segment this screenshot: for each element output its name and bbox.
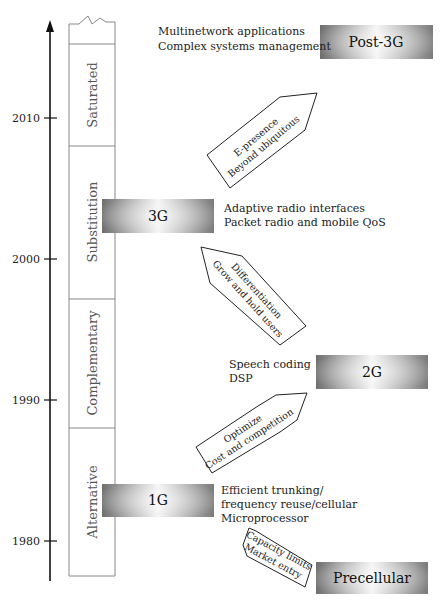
phase-alternative: Alternative — [85, 465, 100, 540]
phase-substitution: Substitution — [85, 181, 100, 262]
generation-3g: 3G Adaptive radio interfaces Packet radi… — [102, 199, 386, 233]
time-axis: 2010 2000 1990 1980 — [12, 20, 57, 581]
feature-line: frequency reuse/cellular — [221, 498, 358, 511]
feature-line: Microprocessor — [221, 512, 309, 525]
feature-line: Adaptive radio interfaces — [223, 202, 365, 215]
tick-label: 1980 — [12, 535, 40, 548]
generation-1g: 1G Efficient trunking/ frequency reuse/c… — [102, 484, 358, 525]
feature-line: DSP — [229, 372, 253, 385]
feature-line: Speech coding — [229, 358, 311, 371]
feature-line: Multinetwork applications — [158, 25, 305, 38]
generation-label: 1G — [148, 492, 168, 508]
transition-arrow-3g-to-post3g: E-presence Beyond ubiquitous — [207, 93, 317, 188]
generation-label: Post-3G — [349, 34, 404, 50]
transition-arrow-precellular-to-1g: Capacity limits Market entry — [239, 528, 314, 587]
generation-label: Precellular — [333, 570, 411, 586]
feature-line: Packet radio and mobile QoS — [224, 216, 386, 229]
phase-complementary: Complementary — [85, 310, 100, 416]
tick-label: 2010 — [12, 112, 40, 125]
tick-label: 2000 — [12, 253, 40, 266]
generation-2g: 2G Speech coding DSP — [229, 355, 428, 389]
generation-precellular: Precellular — [316, 562, 428, 594]
generation-label: 2G — [362, 364, 382, 380]
tick-label: 1990 — [12, 394, 40, 407]
transition-arrow-1g-to-2g: Optimize Cost and competition — [196, 393, 307, 473]
axis-arrowhead-icon — [46, 20, 54, 32]
generation-label: 3G — [148, 208, 168, 224]
transition-arrow-2g-to-3g: Differentiation Grow and hold users — [201, 247, 306, 345]
feature-line: Efficient trunking/ — [221, 484, 324, 497]
phase-saturated: Saturated — [85, 62, 100, 127]
generation-post-3g: Post-3G Multinetwork applications Comple… — [158, 25, 433, 59]
feature-line: Complex systems management — [158, 40, 331, 53]
generation-evolution-diagram: 2010 2000 1990 1980 Saturated Substituti… — [0, 0, 444, 606]
